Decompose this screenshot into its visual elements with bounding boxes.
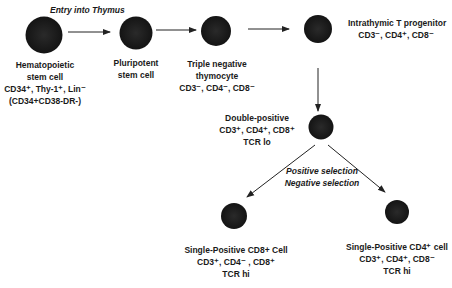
cell-double-positive <box>309 115 334 140</box>
hsc-line-1: Hematopoietic <box>4 59 86 71</box>
triple-markers: CD3⁻, CD4⁻, CD8⁻ <box>176 82 258 94</box>
dp-tcr: TCR lo <box>214 136 300 148</box>
sp-cd4-tcr: TCR hi <box>342 265 452 277</box>
cell-sp-cd4 <box>385 200 409 224</box>
hsc-phenotype: (CD34+CD38-DR-) <box>4 95 86 107</box>
hsc-label: Hematopoietic stem cell CD34⁺, Thy-1⁺, L… <box>4 59 86 107</box>
cell-sp-cd8 <box>221 203 247 229</box>
cell-triple-negative <box>201 16 231 46</box>
sp-cd8-tcr: TCR hi <box>178 268 294 280</box>
cell-hsc <box>26 17 63 54</box>
dp-markers: CD3⁺, CD4⁺, CD8⁺ <box>214 124 300 136</box>
hsc-markers: CD34⁺, Thy-1⁺, Lin⁻ <box>4 83 86 95</box>
intrathymic-line-1: Intrathymic T progenitor <box>348 17 444 29</box>
negative-selection-label: Negative selection <box>282 177 362 189</box>
cell-pluripotent <box>120 17 153 50</box>
intrathymic-label: Intrathymic T progenitor CD3⁻, CD4⁺, CD8… <box>348 17 444 41</box>
sp-cd8-label: Single-Positive CD8+ Cell CD3⁺, CD4⁻ , C… <box>178 244 294 280</box>
sp-cd4-label: Single-Positive CD4⁺ cell CD3⁺, CD4⁺, CD… <box>342 241 452 277</box>
triple-line-2: thymocyte <box>176 70 258 82</box>
cell-intrathymic <box>304 15 332 43</box>
sp-cd8-markers: CD3⁺, CD4⁻ , CD8⁺ <box>178 256 294 268</box>
sp-cd8-line-1: Single-Positive CD8+ Cell <box>178 244 294 256</box>
hsc-line-2: stem cell <box>4 71 86 83</box>
entry-into-thymus-label: Entry into Thymus <box>50 4 125 16</box>
intrathymic-markers: CD3⁻, CD4⁺, CD8⁻ <box>348 29 444 41</box>
sp-cd4-markers: CD3⁺, CD4⁺, CD8⁻ <box>342 253 452 265</box>
sp-cd4-line-1: Single-Positive CD4⁺ cell <box>342 241 452 253</box>
positive-selection-label: Positive selection <box>282 165 362 177</box>
pluripotent-line-2: stem cell <box>106 69 166 81</box>
pluripotent-line-1: Pluripotent <box>106 57 166 69</box>
selection-label: Positive selection Negative selection <box>282 165 362 189</box>
dp-line-1: Double-positive <box>214 112 300 124</box>
triple-negative-label: Triple negative thymocyte CD3⁻, CD4⁻, CD… <box>176 58 258 94</box>
triple-line-1: Triple negative <box>176 58 258 70</box>
pluripotent-label: Pluripotent stem cell <box>106 57 166 81</box>
double-positive-label: Double-positive CD3⁺, CD4⁺, CD8⁺ TCR lo <box>214 112 300 148</box>
